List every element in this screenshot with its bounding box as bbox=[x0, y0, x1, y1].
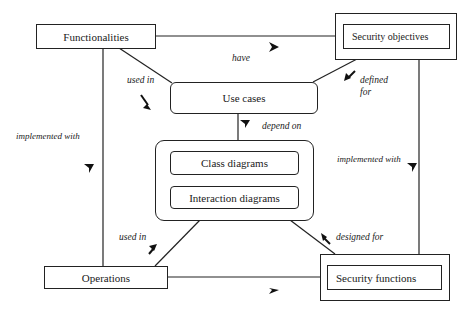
edge-label-used-in-top: used in bbox=[127, 75, 154, 85]
edge-label-used-in-bottom: used in bbox=[119, 232, 146, 242]
arrow-right-icon bbox=[269, 42, 279, 52]
arrow-down-icon bbox=[240, 120, 250, 128]
edge-label-depend-on: depend on bbox=[262, 121, 301, 131]
node-label: Functionalities bbox=[63, 31, 128, 43]
arrow-right-icon bbox=[269, 288, 279, 294]
edge-label-for: for bbox=[360, 87, 371, 97]
node-label: Interaction diagrams bbox=[189, 192, 280, 204]
node-label: Operations bbox=[82, 272, 130, 284]
node-label: Use cases bbox=[222, 92, 265, 104]
edge-label-designed-for: designed for bbox=[336, 232, 383, 242]
edge-label-defined: defined bbox=[360, 75, 388, 85]
edge-label-implemented-with-right: implemented with bbox=[337, 154, 401, 164]
node-functionalities: Functionalities bbox=[36, 24, 156, 49]
node-security-objectives: Security objectives bbox=[343, 24, 450, 49]
edge-label-have: have bbox=[232, 53, 250, 63]
edge-label-implemented-with-left: implemented with bbox=[16, 131, 80, 141]
arrow-down-icon bbox=[407, 163, 417, 172]
arrow-down-icon bbox=[84, 164, 94, 173]
node-class-diagrams: Class diagrams bbox=[170, 151, 299, 175]
node-label: Security objectives bbox=[352, 31, 428, 42]
node-use-cases: Use cases bbox=[170, 82, 318, 114]
node-label: Security functions bbox=[336, 272, 416, 284]
node-label: Class diagrams bbox=[201, 157, 268, 169]
node-interaction-diagrams: Interaction diagrams bbox=[170, 186, 299, 209]
node-security-functions: Security functions bbox=[327, 265, 442, 290]
node-operations: Operations bbox=[44, 266, 168, 289]
